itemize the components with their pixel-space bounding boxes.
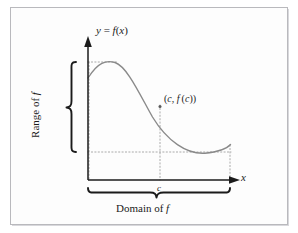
x-axis-arrowhead [229,176,240,184]
y-axis-arrowhead [84,36,92,47]
c-tick-label: c [157,184,161,193]
x-axis-label: x [241,172,246,183]
range-brace [67,62,77,152]
figure-page: y = f(x) x (c, f (c)) c Domain of f Rang… [0,0,298,233]
point-marker-c [159,105,162,108]
graph-canvas [0,0,298,233]
domain-label: Domain of f [116,203,169,214]
range-label: Range of f [30,22,41,84]
y-axis-label: y = f(x) [96,25,128,36]
point-label: (c, f (c)) [164,94,196,104]
dotted-guides [88,62,231,180]
axes [84,36,240,184]
